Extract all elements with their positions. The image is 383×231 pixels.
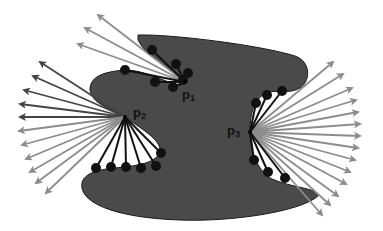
sample-dot bbox=[277, 86, 287, 96]
sample-dot bbox=[106, 162, 116, 172]
point-p2 bbox=[123, 115, 127, 119]
diagram-canvas: p1 p2 p3 bbox=[0, 0, 383, 231]
label-p3-sub: 3 bbox=[235, 129, 240, 139]
sample-dot bbox=[156, 148, 166, 158]
sample-dot bbox=[120, 65, 130, 75]
sample-dot bbox=[171, 59, 181, 69]
sample-dot bbox=[91, 163, 101, 173]
sample-dot bbox=[263, 167, 273, 177]
sample-dot bbox=[147, 45, 157, 55]
sample-dot bbox=[150, 77, 160, 87]
point-p3 bbox=[248, 130, 252, 134]
label-p1: p1 bbox=[182, 88, 195, 103]
label-p2: p2 bbox=[133, 106, 146, 121]
sample-dot bbox=[168, 82, 178, 92]
sample-dot bbox=[121, 162, 131, 172]
sample-segment bbox=[125, 117, 126, 167]
label-p3: p3 bbox=[227, 124, 240, 139]
label-p2-text: p bbox=[133, 105, 141, 120]
sample-dot bbox=[178, 75, 188, 85]
label-p3-text: p bbox=[227, 123, 235, 138]
label-p1-text: p bbox=[182, 87, 190, 102]
sample-dot bbox=[280, 173, 290, 183]
sample-dot bbox=[251, 98, 261, 108]
sample-dot bbox=[262, 90, 272, 100]
dark-polygon-shape bbox=[82, 35, 318, 220]
point-p1 bbox=[183, 80, 187, 84]
polygon-visibility-diagram bbox=[0, 0, 383, 231]
sample-dot bbox=[151, 161, 161, 171]
sample-dot bbox=[249, 155, 259, 165]
sample-dot bbox=[136, 163, 146, 173]
label-p2-sub: 2 bbox=[141, 111, 146, 121]
label-p1-sub: 1 bbox=[190, 93, 195, 103]
